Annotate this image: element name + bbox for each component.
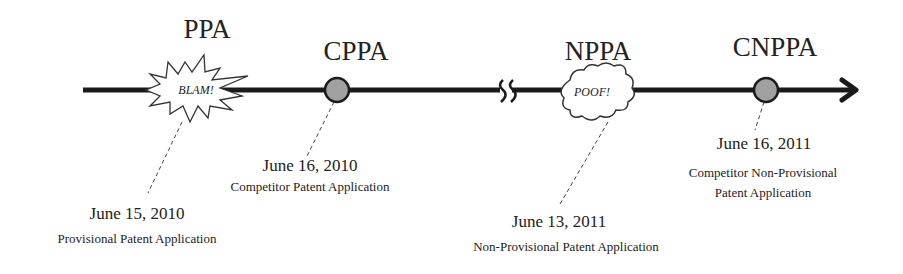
burst-text: BLAM! [178,83,213,98]
cnppa-date: June 16, 2011 [717,134,811,154]
cnppa-description-line2: Patent Application [715,184,811,201]
ppa-date: June 15, 2010 [90,204,185,224]
axis-break-icon [500,80,506,102]
cnppa-circle-icon [754,78,778,102]
cnppa-heading: CNPPA [733,32,818,63]
cppa-heading: CPPA [323,36,388,67]
cppa-circle-icon [325,78,349,102]
cnppa-description-line1: Competitor Non-Provisional [689,164,837,181]
cppa-description: Competitor Patent Application [231,178,390,195]
nppa-heading: NPPA [565,36,632,67]
nppa-description: Non-Provisional Patent Application [473,238,659,255]
nppa-date: June 13, 2011 [512,212,606,232]
ppa-description: Provisional Patent Application [58,230,217,247]
cppa-date: June 16, 2010 [263,156,358,176]
ppa-heading: PPA [183,14,230,45]
cloud-text: POOF! [574,85,610,100]
